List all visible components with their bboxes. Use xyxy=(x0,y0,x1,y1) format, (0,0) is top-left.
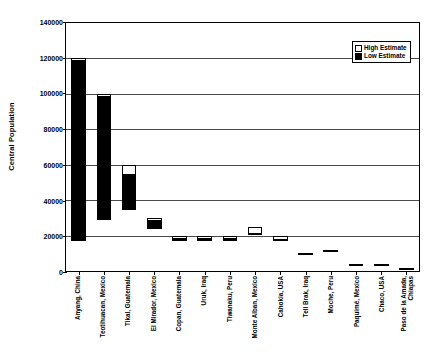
bar-segment-high-estimate xyxy=(298,253,313,255)
bar xyxy=(147,218,162,271)
bar-group xyxy=(268,23,293,271)
x-axis-label: Tell Brak, Iraq xyxy=(293,276,318,354)
x-axis-tick-mark xyxy=(205,271,206,275)
x-axis-label: Uruk, Iraq xyxy=(192,276,217,354)
bar-segment-high-estimate xyxy=(97,94,112,221)
x-axis-tick-mark xyxy=(230,271,231,275)
x-axis-label-text: Tell Brak, Iraq xyxy=(302,276,309,317)
y-axis-tick-label: 140000 xyxy=(0,19,63,26)
x-axis-tick-mark xyxy=(306,271,307,275)
x-axis-label-text: Chaco, USA xyxy=(378,276,385,312)
x-axis-label: Copan, Guatemala xyxy=(166,276,191,354)
y-axis-tick-label: 0 xyxy=(0,269,63,276)
x-axis-label-text: Anyang, China xyxy=(74,276,81,320)
bar xyxy=(298,253,313,271)
bar-segment-high-estimate xyxy=(147,218,162,229)
x-axis-tick-mark xyxy=(255,271,256,275)
x-axis-label: Anyang, China xyxy=(65,276,90,354)
bar-segment-low-estimate xyxy=(349,264,364,266)
bar-segment-high-estimate xyxy=(349,264,364,266)
bar-segment-high-estimate xyxy=(248,227,263,235)
y-axis-tick-label: 60000 xyxy=(0,161,63,168)
x-axis-label-text: Copan, Guatemala xyxy=(175,276,182,331)
x-axis-tick-mark xyxy=(179,271,180,275)
x-axis-tick-mark xyxy=(104,271,105,275)
x-axis-label: Teotihuacan, Mexico xyxy=(90,276,115,354)
x-axis-label-text: Tikal, Guatemala xyxy=(125,276,132,326)
x-axis-labels: Anyang, ChinaTeotihuacan, MexicoTikal, G… xyxy=(65,276,420,354)
x-axis-label: Paquimé, Mexico xyxy=(344,276,369,354)
bar-segment-low-estimate xyxy=(323,250,338,252)
bar xyxy=(122,165,137,271)
y-axis-tick-label: 120000 xyxy=(0,54,63,61)
bar-segment-low-estimate xyxy=(374,264,389,266)
population-bar-chart: Central Population 020000400006000080000… xyxy=(0,0,442,355)
bar-segment-low-estimate xyxy=(197,238,212,241)
y-axis-tick-mark xyxy=(63,272,67,273)
bar-segment-high-estimate xyxy=(197,236,212,241)
y-axis-tick-label: 80000 xyxy=(0,126,63,133)
x-axis-label-text: Tiwanaku, Peru xyxy=(226,276,233,322)
y-axis-tick-label: 20000 xyxy=(0,233,63,240)
x-axis-label: Moche, Peru xyxy=(319,276,344,354)
x-axis-tick-mark xyxy=(331,271,332,275)
bar xyxy=(323,250,338,271)
x-axis-label-text: Monte Alban, Mexico xyxy=(251,276,258,338)
x-axis-tick-mark xyxy=(356,271,357,275)
x-axis-label-text: El Mirador, Mexico xyxy=(150,276,157,331)
bar-segment-low-estimate xyxy=(122,174,137,210)
bar-segment-high-estimate xyxy=(273,236,288,241)
x-axis-tick-mark xyxy=(129,271,130,275)
bar xyxy=(374,264,389,271)
x-axis-label-text: Teotihuacan, Mexico xyxy=(99,276,106,337)
x-axis-label: Paso de la Amada, Chiapas xyxy=(395,276,420,354)
bar-group xyxy=(91,23,116,271)
y-axis-tick-label: 40000 xyxy=(0,197,63,204)
bar-segment-high-estimate xyxy=(71,58,86,240)
bar-segment-low-estimate xyxy=(147,220,162,229)
bar-group xyxy=(167,23,192,271)
legend-swatch-low-estimate-icon xyxy=(355,53,362,60)
x-axis-label-text: Cahokia, USA xyxy=(277,276,284,317)
y-axis-tick-label: 100000 xyxy=(0,90,63,97)
bar-segment-low-estimate xyxy=(298,253,313,255)
bar xyxy=(248,227,263,271)
bar-group xyxy=(192,23,217,271)
x-axis-tick-mark xyxy=(79,271,80,275)
bar-segment-high-estimate xyxy=(223,236,238,241)
x-axis-label: Tiwanaku, Peru xyxy=(217,276,242,354)
bar-segment-low-estimate xyxy=(248,233,263,235)
x-axis-label-text: Paso de la Amada, Chiapas xyxy=(400,276,415,350)
bar xyxy=(273,236,288,271)
bar-segment-high-estimate xyxy=(172,236,187,241)
chart-legend: High Estimate Low Estimate xyxy=(352,41,411,63)
x-axis-label: Monte Alban, Mexico xyxy=(243,276,268,354)
x-axis-label: Chaco, USA xyxy=(369,276,394,354)
x-axis-tick-mark xyxy=(280,271,281,275)
x-axis-tick-mark xyxy=(154,271,155,275)
bar-segment-low-estimate xyxy=(71,60,86,240)
x-axis-tick-mark xyxy=(381,271,382,275)
bar-segment-high-estimate xyxy=(323,250,338,252)
bar-segment-low-estimate xyxy=(223,238,238,240)
bar-group xyxy=(217,23,242,271)
x-axis-label: Cahokia, USA xyxy=(268,276,293,354)
bar xyxy=(172,236,187,271)
bar xyxy=(97,94,112,271)
bar-segment-high-estimate xyxy=(374,264,389,266)
legend-item-high-estimate: High Estimate xyxy=(355,44,407,52)
legend-label-low-estimate: Low Estimate xyxy=(364,52,405,60)
bar-group xyxy=(116,23,141,271)
y-axis-title: Central Population xyxy=(2,0,20,272)
bar-group xyxy=(293,23,318,271)
bar xyxy=(71,58,86,271)
bar-segment-low-estimate xyxy=(273,239,288,241)
x-axis-label-text: Moche, Peru xyxy=(328,276,335,313)
bar-segment-high-estimate xyxy=(122,165,137,211)
bar-group xyxy=(318,23,343,271)
bar-segment-low-estimate xyxy=(172,238,187,241)
legend-label-high-estimate: High Estimate xyxy=(364,44,407,52)
bar xyxy=(197,236,212,271)
x-axis-label-text: Uruk, Iraq xyxy=(201,276,208,305)
x-axis-tick-mark xyxy=(406,271,407,275)
